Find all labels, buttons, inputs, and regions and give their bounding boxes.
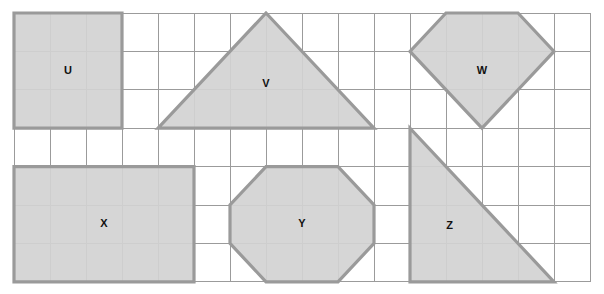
shape-label-z: Z	[446, 219, 453, 231]
shape-label-x: X	[100, 217, 108, 229]
shape-label-y: Y	[298, 217, 306, 229]
shapes-grid-figure: UVWXYZ	[0, 0, 604, 294]
shape-label-u: U	[64, 64, 72, 76]
geometry-worksheet: UVWXYZ	[0, 0, 604, 294]
shape-v	[158, 13, 374, 128]
shape-label-w: W	[477, 64, 488, 76]
shapes-layer	[14, 13, 554, 282]
shape-label-v: V	[262, 77, 270, 89]
